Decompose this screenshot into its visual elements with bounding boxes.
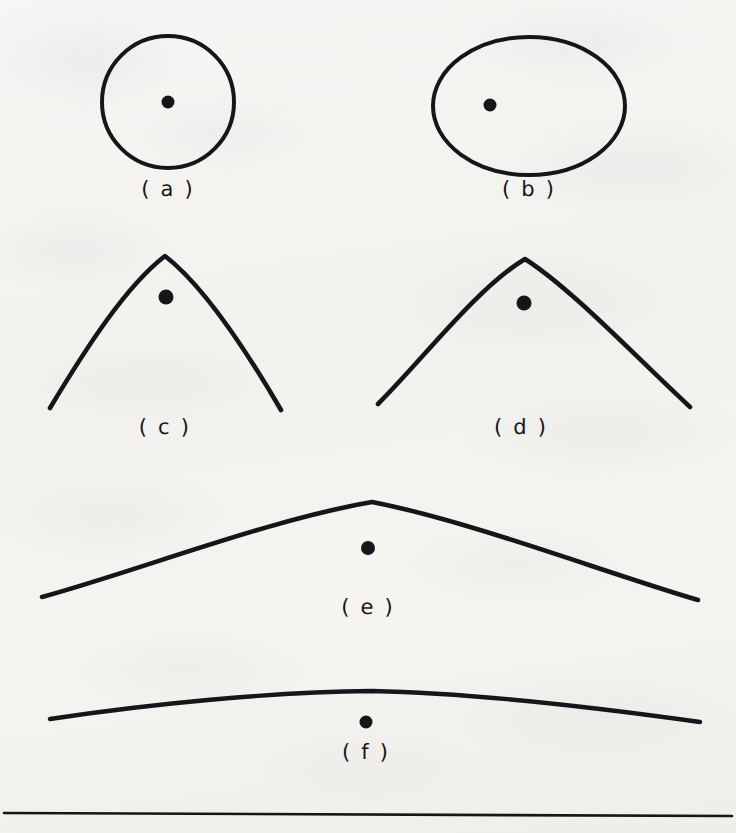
panel-b-center-dot	[484, 99, 497, 112]
figure-page: ( a ) ( b ) ( c ) ( d ) ( e ) ( f )	[0, 0, 736, 833]
panel-label-c: ( c )	[139, 415, 191, 439]
panel-label-a: ( a )	[141, 177, 195, 201]
panel-f	[50, 691, 700, 729]
panel-b-ellipse-outline	[433, 37, 625, 175]
bottom-rule	[4, 813, 732, 816]
panel-e-center-dot	[361, 541, 375, 555]
figure-canvas	[0, 0, 736, 833]
panel-c-center-dot	[159, 290, 174, 305]
panel-d-center-dot	[517, 296, 532, 311]
panel-d	[378, 259, 690, 407]
panel-a-center-dot	[162, 96, 175, 109]
panel-c	[50, 256, 281, 410]
panel-f-center-dot	[360, 716, 373, 729]
panel-label-f: ( f )	[342, 740, 390, 764]
panel-label-b: ( b )	[502, 177, 556, 201]
panel-label-d: ( d )	[494, 415, 548, 439]
panel-b	[433, 37, 625, 175]
panel-a	[102, 36, 234, 168]
panel-e	[42, 502, 698, 600]
panel-d-peak-curve	[378, 259, 690, 407]
panel-c-peak-curve	[50, 256, 281, 410]
panel-f-arc-curve	[50, 691, 700, 722]
panel-label-e: ( e )	[341, 595, 395, 619]
